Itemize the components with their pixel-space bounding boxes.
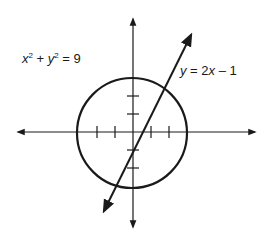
circle-equation-label: x2 + y2 = 9 <box>22 52 81 65</box>
line-graph <box>104 35 191 211</box>
circle-eq-plus: + <box>33 51 48 66</box>
line-eq-constant: – 1 <box>215 63 237 78</box>
line-eq-coefficient: = 2 <box>187 63 209 78</box>
coordinate-plane <box>0 0 271 237</box>
circle-eq-rhs: = 9 <box>59 51 81 66</box>
line-equation-label: y = 2x – 1 <box>180 64 237 77</box>
circle-graph <box>77 78 187 188</box>
